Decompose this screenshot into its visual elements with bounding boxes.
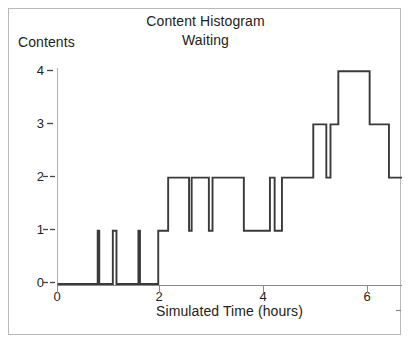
content-histogram-chart: Content Histogram Waiting Contents Simul… xyxy=(0,0,411,346)
waiting-contents-step-line xyxy=(58,71,403,284)
y-tick-marks xyxy=(43,71,55,283)
plot-area xyxy=(0,0,411,346)
x-tick-marks xyxy=(58,285,368,293)
